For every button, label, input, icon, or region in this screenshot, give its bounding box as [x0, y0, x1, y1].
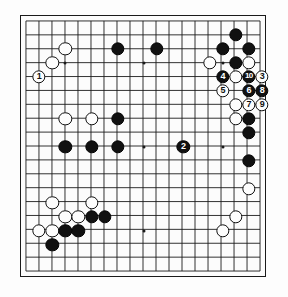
- hoshi-point: [143, 230, 146, 233]
- go-diagram-container: 14103568792: [0, 0, 288, 297]
- move-number: 4: [220, 72, 225, 81]
- hoshi-point: [64, 62, 67, 65]
- move-number: 7: [247, 100, 252, 109]
- move-number: 3: [260, 72, 265, 81]
- go-board[interactable]: 14103568792: [20, 15, 266, 277]
- hoshi-point: [221, 146, 224, 149]
- hoshi-point: [143, 62, 146, 65]
- move-number: 2: [181, 142, 186, 151]
- move-number: 8: [260, 86, 265, 95]
- move-number: 6: [247, 86, 252, 95]
- hoshi-point: [143, 146, 146, 149]
- move-number: 10: [245, 73, 253, 81]
- move-number: 5: [220, 86, 225, 95]
- move-number: 9: [260, 100, 265, 109]
- move-stone-9[interactable]: 9: [255, 98, 268, 111]
- hoshi-point: [221, 62, 224, 65]
- move-stone-3[interactable]: 3: [255, 70, 268, 83]
- move-number: 1: [37, 72, 42, 81]
- move-stone-8[interactable]: 8: [255, 84, 268, 97]
